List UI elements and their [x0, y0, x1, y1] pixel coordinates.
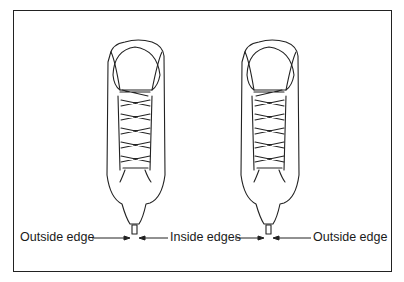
right-skate-icon: [241, 40, 299, 234]
left-skate-icon: [107, 40, 165, 234]
inside-edges-label: Inside edges: [170, 231, 241, 244]
outside-edge-left-label: Outside edge: [20, 231, 94, 244]
outside-edge-right-label: Outside edge: [313, 231, 387, 244]
